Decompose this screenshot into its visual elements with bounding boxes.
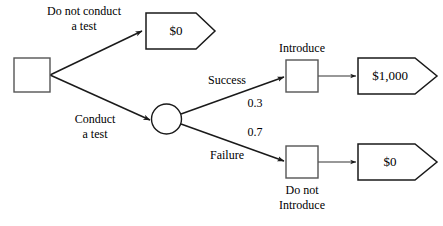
node-root-decision: [14, 58, 50, 92]
node-label-do-not-introduce-line1: Do not: [266, 183, 338, 198]
branch-label-success: Success: [196, 73, 258, 88]
probability-failure: 0.7: [240, 125, 270, 140]
branch-label-conduct-line1: Conduct: [62, 112, 128, 127]
probability-success: 0.3: [240, 96, 270, 111]
node-label-do-not-introduce-line2: Introduce: [266, 198, 338, 213]
decision-tree-diagram: $0 $1,000 $0 Do not conduct a test Condu…: [0, 0, 443, 226]
branch-label-do-not-conduct-line2: a test: [28, 19, 140, 34]
payoff-do-not-introduce-value: $0: [384, 154, 397, 169]
node-label-introduce: Introduce: [266, 41, 338, 56]
branch-label-conduct-line2: a test: [62, 127, 128, 142]
node-introduce-decision: [286, 60, 318, 92]
node-chance: [152, 104, 182, 134]
node-payoff-do-not-introduce: [358, 144, 437, 180]
payoff-introduce-value: $1,000: [372, 68, 408, 83]
branch-do-not-conduct: [50, 31, 142, 75]
branch-label-do-not-conduct-line1: Do not conduct: [28, 4, 140, 19]
branch-label-failure: Failure: [196, 148, 258, 163]
payoff-no-test-value: $0: [170, 23, 183, 38]
node-do-not-introduce-decision: [286, 146, 318, 178]
